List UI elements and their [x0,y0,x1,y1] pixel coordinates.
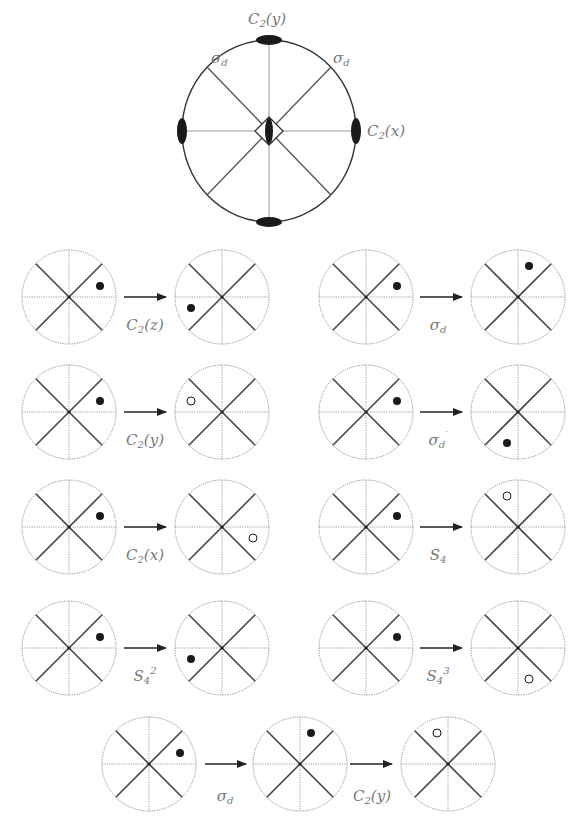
composite-operation-row: σdC2(y) [102,717,495,811]
stereogram-after [471,250,565,344]
open-point-icon [503,492,511,500]
operation-label: σd′ [429,429,449,450]
composite-label-1: σd [217,787,234,806]
filled-point-icon [96,633,104,641]
c2y-axis-top-icon [256,35,282,45]
stereogram-before [319,601,413,695]
label-sigma-d-main: σd [333,49,350,68]
operation-label: C2(y) [126,431,164,450]
stereogram-step-1 [102,717,196,811]
operation-label: S42 [133,665,156,686]
filled-point-icon [525,262,533,270]
filled-point-icon [503,439,511,447]
label-c2y-main: C2(y) [248,10,286,29]
filled-point-icon [176,749,184,757]
c2x-axis-right-icon [351,118,361,144]
operation-sigma_d_prime: σd′ [319,365,565,459]
stereogram-after [471,480,565,574]
sigma-d-prime-plane [276,138,331,195]
open-point-icon [249,534,257,542]
operation-label: S43 [426,665,449,686]
filled-point-icon [187,304,195,312]
filled-point-icon [393,633,401,641]
operation-label: σd [430,316,447,335]
operation-label: S4 [430,546,447,565]
stereogram-after [471,601,565,695]
operation-C2y: C2(y) [22,365,269,459]
stereogram-before [22,365,116,459]
operation-S4_2: S42 [22,601,269,695]
filled-point-icon [96,512,104,520]
open-point-icon [525,675,533,683]
c2x-axis-left-icon [177,118,187,144]
operation-S4: S4 [319,480,565,574]
stereogram-before [22,250,116,344]
filled-point-icon [96,282,104,290]
operation-label: C2(x) [126,546,164,565]
stereogram-before [22,601,116,695]
stereogram-after [175,365,269,459]
label-c2x-main: C2(x) [367,122,405,141]
filled-point-icon [393,397,401,405]
c2z-axis-icon [265,118,273,144]
operations-grid: C2(z)σdC2(y)σd′C2(x)S4S42S43 [22,250,565,695]
filled-point-icon [393,512,401,520]
operation-C2x: C2(x) [22,480,269,574]
operation-sigma_d: σd [319,250,565,344]
stereogram-before [319,480,413,574]
c2y-axis-bottom-icon [256,217,282,227]
d2d-symmetry-diagram: C2(y) σd′ σd C2(x) C2(z)σdC2(y)σd′C2(x)S… [0,0,584,830]
sigma-d-plane [276,67,331,124]
filled-point-icon [187,655,195,663]
label-sigma-d-prime-main: σd′ [211,47,231,68]
filled-point-icon [393,282,401,290]
composite-label-2: C2(y) [353,787,391,806]
stereogram-after [175,480,269,574]
open-point-icon [187,397,195,405]
stereogram-step-2 [253,717,347,811]
operation-label: C2(z) [126,316,164,335]
stereogram-before [22,480,116,574]
stereogram-step-3 [401,717,495,811]
stereogram-after [175,250,269,344]
stereogram-before [319,365,413,459]
operation-C2z: C2(z) [22,250,269,344]
open-point-icon [433,729,441,737]
stereogram-before [319,250,413,344]
operation-S4_3: S43 [319,601,565,695]
filled-point-icon [307,729,315,737]
stereogram-after [471,365,565,459]
stereogram-after [175,601,269,695]
sigma-d-plane [207,138,262,195]
filled-point-icon [96,397,104,405]
sigma-d-prime-plane [207,67,262,124]
